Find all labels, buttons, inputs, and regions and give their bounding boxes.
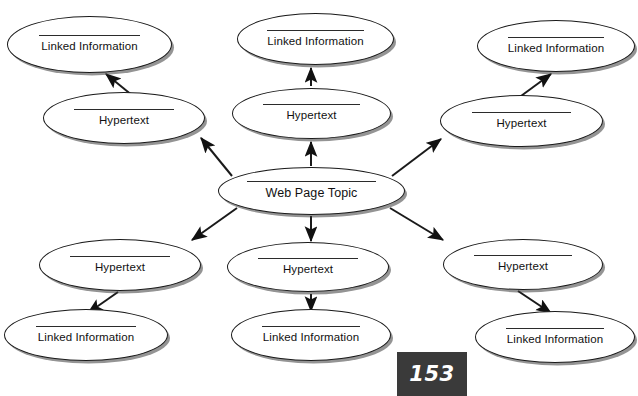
node-ht-topcenter: Hypertext	[232, 88, 391, 139]
node-write-on-rule	[263, 104, 360, 105]
node-content: Hypertext	[44, 93, 204, 143]
node-label: Hypertext	[286, 109, 336, 122]
node-label: Linked Information	[267, 35, 363, 48]
node-write-on-rule	[474, 255, 572, 256]
node-label: Linked Information	[263, 331, 359, 344]
node-ht-botcenter: Hypertext	[227, 242, 389, 292]
node-ht-botright: Hypertext	[443, 239, 603, 290]
node-content: Linked Information	[5, 310, 167, 360]
node-content: Linked Information	[238, 14, 393, 64]
arrow-ht-right-to-li-right	[521, 74, 551, 96]
node-write-on-rule	[70, 256, 169, 257]
node-li-botright: Linked Information	[475, 311, 635, 363]
node-ht-left: Hypertext	[43, 92, 205, 144]
node-label: Linked Information	[38, 331, 134, 344]
concept-map-diagram: Web Page TopicHypertextLinked Informatio…	[0, 0, 638, 396]
node-content: Linked Information	[8, 17, 171, 72]
node-label: Web Page Topic	[266, 186, 358, 200]
node-content: Hypertext	[40, 240, 200, 290]
node-write-on-rule	[39, 35, 140, 36]
node-label: Hypertext	[498, 260, 548, 273]
node-write-on-rule	[74, 109, 173, 110]
node-write-on-rule	[472, 112, 572, 113]
node-content: Hypertext	[441, 96, 602, 146]
node-write-on-rule	[506, 328, 604, 329]
node-content: Linked Information	[232, 310, 390, 360]
node-ht-botleft: Hypertext	[39, 239, 201, 291]
node-label: Hypertext	[95, 261, 145, 274]
node-li-right: Linked Information	[477, 20, 635, 72]
node-label: Linked Information	[507, 333, 603, 346]
node-write-on-rule	[247, 181, 377, 182]
node-content: Hypertext	[233, 89, 390, 138]
node-content: Web Page Topic	[219, 168, 404, 214]
node-write-on-rule	[262, 326, 360, 327]
center-topic-node: Web Page Topic	[218, 167, 405, 215]
page-number: 153	[409, 362, 454, 386]
node-content: Hypertext	[444, 240, 602, 289]
arrow-ht-botright-to-li-botright	[518, 291, 551, 313]
node-li-botcenter: Linked Information	[231, 309, 391, 361]
node-content: Linked Information	[476, 312, 634, 362]
node-write-on-rule	[267, 30, 363, 31]
node-li-topcenter: Linked Information	[237, 13, 394, 65]
node-label: Hypertext	[99, 114, 149, 127]
node-ht-right: Hypertext	[440, 95, 603, 147]
node-label: Linked Information	[508, 42, 604, 55]
node-li-botleft: Linked Information	[4, 309, 168, 361]
node-label: Hypertext	[283, 263, 333, 276]
node-write-on-rule	[258, 258, 357, 259]
node-write-on-rule	[36, 326, 136, 327]
node-content: Hypertext	[228, 243, 388, 291]
node-label: Linked Information	[41, 40, 137, 53]
node-write-on-rule	[508, 37, 605, 38]
node-li-left: Linked Information	[7, 16, 172, 73]
node-label: Hypertext	[496, 117, 546, 130]
node-content: Linked Information	[478, 21, 634, 71]
page-number-badge: 153	[397, 352, 467, 396]
